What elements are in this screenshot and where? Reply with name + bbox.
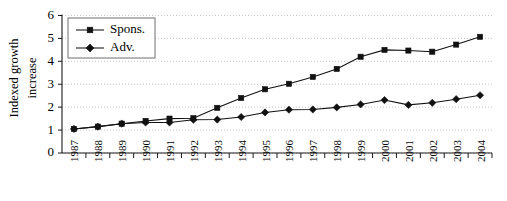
y-tick-label: 4 — [48, 53, 55, 68]
x-tick-labels: 1987198819891990199119921993199419951996… — [68, 140, 492, 163]
square-marker-icon — [358, 54, 363, 59]
y-tick-label: 3 — [48, 76, 55, 91]
diamond-marker-icon — [476, 92, 483, 99]
diamond-marker-icon — [309, 106, 316, 113]
y-tick-label: 1 — [48, 122, 55, 137]
x-tick-label: 2004 — [475, 140, 487, 163]
y-tick-label: 0 — [48, 144, 55, 159]
legend-label-adv: Adv. — [110, 39, 135, 54]
x-tick-label: 1990 — [140, 140, 152, 163]
diamond-marker-icon — [357, 101, 364, 108]
x-tick-label: 1992 — [188, 140, 200, 162]
y-axis-title-line1: Indexed growth — [7, 38, 21, 118]
diamond-marker-icon — [381, 96, 388, 103]
x-tick-label: 1989 — [116, 140, 128, 163]
square-marker-icon — [382, 47, 387, 52]
square-marker-icon — [406, 48, 411, 53]
square-marker-icon — [87, 27, 93, 33]
x-tick-label: 1994 — [236, 140, 248, 163]
x-tick-label: 1998 — [331, 140, 343, 163]
line-chart: 0123456 19871988198919901991199219931994… — [0, 0, 507, 201]
square-marker-icon — [334, 66, 339, 71]
series-line-adv — [74, 95, 480, 129]
x-tick-label: 1991 — [164, 140, 176, 162]
x-tick-label: 2002 — [427, 140, 439, 162]
y-axis-title-line2: increase — [25, 57, 39, 98]
y-tick-label: 5 — [48, 30, 55, 45]
y-tick-label: 6 — [48, 7, 55, 22]
square-marker-icon — [310, 74, 315, 79]
square-marker-icon — [430, 49, 435, 54]
diamond-marker-icon — [285, 106, 292, 113]
chart-legend: Spons.Adv. — [68, 18, 155, 58]
y-tick-label: 2 — [48, 99, 55, 114]
y-axis-title: Indexed growth increase — [7, 38, 39, 118]
square-marker-icon — [454, 42, 459, 47]
y-tick-labels: 0123456 — [48, 7, 63, 160]
x-tick-label: 2001 — [403, 140, 415, 162]
x-tick-label: 1988 — [92, 140, 104, 163]
diamond-marker-icon — [238, 113, 245, 120]
x-tick-label: 1995 — [260, 140, 272, 163]
square-marker-icon — [215, 105, 220, 110]
x-tick-label: 1996 — [283, 140, 295, 163]
x-tick-label: 2003 — [451, 140, 463, 163]
diamond-marker-icon — [453, 96, 460, 103]
x-tick-label: 1999 — [355, 140, 367, 163]
x-tick-label: 1997 — [307, 140, 319, 163]
diamond-marker-icon — [333, 104, 340, 111]
square-marker-icon — [262, 87, 267, 92]
square-marker-icon — [286, 81, 291, 86]
diamond-marker-icon — [214, 116, 221, 123]
square-marker-icon — [239, 95, 244, 100]
x-tick-label: 1987 — [68, 140, 80, 163]
diamond-marker-icon — [261, 109, 268, 116]
x-tick-label: 1993 — [212, 140, 224, 163]
x-tick-label: 2000 — [379, 140, 391, 163]
diamond-marker-icon — [429, 99, 436, 106]
square-marker-icon — [477, 34, 482, 39]
legend-label-spons: Spons. — [110, 21, 145, 36]
chart-container: 0123456 19871988198919901991199219931994… — [0, 0, 507, 201]
